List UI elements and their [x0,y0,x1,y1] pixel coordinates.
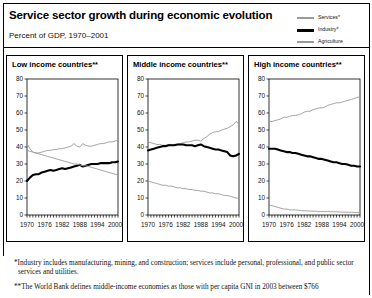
series-line-agriculture [269,205,360,213]
footnote-1: **The World Bank defines middle-income e… [14,283,360,292]
y-tick-label: 20 [16,177,24,184]
y-tick-label: 0 [261,211,265,218]
y-tick-label: 50 [16,126,24,133]
x-tick-label: 1988 [194,221,209,228]
y-tick-label: 80 [16,75,24,82]
legend-item-industry: Industry* [297,25,369,35]
series-line-services [27,140,118,153]
x-tick-label: 1982 [176,221,191,228]
y-tick-label: 40 [16,143,24,150]
y-tick-label: 20 [258,177,266,184]
y-tick-label: 10 [258,194,266,201]
series-line-services [269,97,360,122]
x-tick-label: 1976 [280,221,295,228]
y-tick-label: 40 [137,143,145,150]
x-tick-label: 1982 [297,221,312,228]
x-tick-label: 2000 [350,221,365,228]
legend-swatch-services-icon [297,17,314,19]
x-tick-label: 1976 [38,221,53,228]
y-tick-label: 50 [137,126,145,133]
chart-panel-2: High income countries**01020304050607080… [248,55,365,242]
y-tick-label: 0 [140,211,144,218]
x-tick-label: 1970 [141,221,156,228]
y-tick-label: 30 [16,160,24,167]
x-tick-label: 1970 [262,221,277,228]
series-line-agriculture [148,181,239,198]
legend-item-agriculture: Agriculture [297,37,369,47]
chart-subtitle: Percent of GDP, 1970–2001 [9,31,108,40]
y-tick-label: 60 [16,109,24,116]
y-tick-label: 80 [258,75,266,82]
chart-legend: Services*Industry*Agriculture [297,13,369,49]
panel-title-2: High income countries** [254,60,342,69]
x-tick-label: 1988 [315,221,330,228]
series-line-services [148,122,239,146]
x-tick-label: 1970 [20,221,35,228]
x-tick-label: 1976 [159,221,174,228]
page-title: Service sector growth during economic ev… [9,9,272,21]
axis-box [269,79,360,215]
chart-panel-1: Middle income countries**010203040506070… [127,55,244,242]
legend-label-services: Services* [318,15,340,20]
y-tick-label: 60 [137,109,145,116]
x-tick-label: 1994 [211,221,226,228]
plot-area-1: 0102030405060708019701976198219881994200… [128,73,245,241]
chart-page: Service sector growth during economic ev… [0,0,372,298]
page-border-top [3,3,369,4]
panel-title-0: Low income countries** [12,60,98,69]
y-tick-label: 10 [137,194,145,201]
y-tick-label: 70 [137,92,145,99]
plot-area-2: 0102030405060708019701976198219881994200… [249,73,366,241]
x-tick-label: 2000 [229,221,244,228]
y-tick-label: 0 [19,211,23,218]
series-line-industry [148,144,239,156]
y-tick-label: 80 [137,75,145,82]
series-line-industry [269,149,360,167]
y-tick-label: 10 [16,194,24,201]
x-tick-label: 1994 [90,221,105,228]
y-tick-label: 50 [258,126,266,133]
x-tick-label: 1994 [332,221,347,228]
axis-box [27,79,118,215]
y-tick-label: 70 [258,92,266,99]
chart-panel-0: Low income countries**010203040506070801… [6,55,123,242]
x-tick-label: 1988 [73,221,88,228]
page-border-left [3,3,4,256]
y-tick-label: 40 [258,143,266,150]
legend-swatch-agriculture-icon [297,41,314,43]
y-tick-label: 30 [137,160,145,167]
plot-area-0: 0102030405060708019701976198219881994200… [7,73,124,241]
panel-title-1: Middle income countries** [133,60,228,69]
x-tick-label: 1982 [55,221,70,228]
footnote-0: *Industry includes manufacturing, mining… [14,259,360,278]
y-tick-label: 30 [258,160,266,167]
legend-item-services: Services* [297,13,369,23]
x-tick-label: 2000 [108,221,123,228]
y-tick-label: 60 [258,109,266,116]
y-tick-label: 70 [16,92,24,99]
chart-panels: Low income countries**010203040506070801… [6,55,366,247]
footnotes: *Industry includes manufacturing, mining… [14,259,360,297]
legend-label-industry: Industry* [318,27,338,32]
page-border-right [369,3,370,295]
legend-label-agriculture: Agriculture [318,39,343,44]
y-tick-label: 20 [137,177,145,184]
legend-swatch-industry-icon [297,29,314,32]
